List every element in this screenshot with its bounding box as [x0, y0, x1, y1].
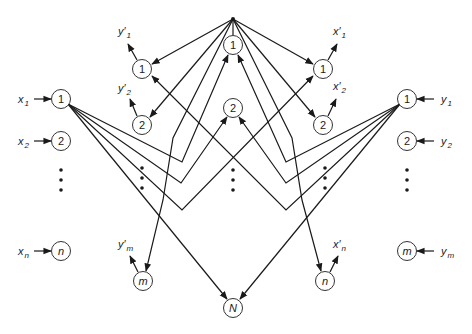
arrow-yp1-out: [128, 44, 137, 60]
label-x2: x2: [17, 135, 30, 150]
hidden-node-1: 1: [224, 36, 243, 55]
output-xprime-node-1: 1: [314, 60, 333, 79]
output-xprime-node-2: 2: [314, 116, 333, 135]
svg-text:1: 1: [404, 93, 410, 105]
edge-y1-hx: [152, 76, 400, 210]
input-y-node-1: 1: [398, 90, 417, 109]
svg-text:n: n: [58, 245, 64, 257]
input-y-node-m: m: [398, 242, 417, 261]
arrow-xp2-out: [328, 99, 336, 116]
ellipsis-y-inputs: [405, 168, 409, 192]
input-y-node-2: 2: [398, 132, 417, 151]
svg-text:m: m: [402, 245, 411, 257]
arrow-xp1-out: [328, 44, 337, 60]
output-yprime-node-m: m: [134, 272, 153, 291]
hidden-node-2: 2: [224, 99, 243, 118]
svg-text:m: m: [138, 275, 147, 287]
svg-text:2: 2: [320, 119, 326, 131]
network-diagram: 1 2 N 1 2 n 1 2 m 1 2 m 1 2 n x1 x2 xn y…: [0, 0, 472, 334]
label-y2: y2: [440, 135, 453, 150]
svg-text:2: 2: [230, 102, 236, 114]
label-y1: y1: [440, 93, 452, 108]
output-yprime-node-2: 2: [133, 116, 152, 135]
ellipsis-yprime: [140, 166, 144, 190]
hidden-node-N: N: [224, 299, 243, 318]
output-yprime-node-1: 1: [133, 60, 152, 79]
svg-text:1: 1: [58, 93, 64, 105]
arrow-xpn-out: [330, 256, 338, 272]
label-xprime-1: x′1: [332, 25, 346, 40]
svg-text:1: 1: [139, 63, 145, 75]
input-x-node-1: 1: [52, 90, 71, 109]
input-x-node-n: n: [52, 242, 71, 261]
label-xn: xn: [17, 245, 30, 260]
ellipsis-xprime: [323, 166, 327, 190]
arrow-yp2-out: [130, 99, 137, 116]
input-x-node-2: 2: [52, 132, 71, 151]
edge-apex-yp1: [152, 19, 233, 64]
label-xprime-2: x′2: [332, 80, 347, 95]
svg-text:1: 1: [230, 39, 236, 51]
svg-text:1: 1: [320, 63, 326, 75]
output-xprime-node-n: n: [316, 272, 335, 291]
svg-text:N: N: [229, 302, 237, 314]
label-xprime-n: x′n: [332, 238, 347, 253]
edge-apex-xp1: [233, 19, 313, 64]
svg-text:2: 2: [139, 119, 145, 131]
ellipsis-x-inputs: [59, 168, 63, 192]
svg-text:2: 2: [58, 135, 64, 147]
label-yprime-1: y′1: [117, 25, 131, 40]
svg-text:2: 2: [404, 135, 410, 147]
label-ym: ym: [440, 245, 455, 260]
ellipsis-hidden: [231, 168, 235, 192]
label-x1: x1: [17, 93, 29, 108]
arrow-ypm-out: [130, 256, 138, 272]
svg-text:n: n: [322, 275, 328, 287]
label-yprime-2: y′2: [117, 82, 132, 97]
label-yprime-m: y′m: [117, 238, 134, 253]
